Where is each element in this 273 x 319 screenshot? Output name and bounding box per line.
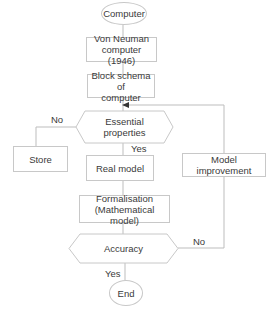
von-neuman-line-2: computer (1946) xyxy=(87,44,156,66)
edge-label-essential-yes: Yes xyxy=(131,143,147,154)
formalisation-line-1: Formalisation xyxy=(96,193,153,204)
process-von-neuman: Von Neuman computer (1946) xyxy=(86,37,157,62)
formalisation-line-2: (Mathematical model) xyxy=(80,204,169,226)
essential-line-1: Essential xyxy=(105,116,144,127)
start-node-computer: Computer xyxy=(101,2,147,25)
start-node-label: Computer xyxy=(103,8,145,19)
decision-essential-properties: Essential properties xyxy=(76,111,173,143)
process-real-model: Real model xyxy=(86,155,154,181)
essential-line-2: properties xyxy=(103,127,145,138)
real-model-label: Real model xyxy=(96,163,144,174)
store-label: Store xyxy=(29,154,52,165)
model-improvement-label: Model improvement xyxy=(183,154,265,176)
end-node-label: End xyxy=(118,288,135,299)
decision-accuracy: Accuracy xyxy=(69,234,178,263)
block-schema-line-2: computer xyxy=(101,92,141,103)
block-schema-line-1: Block schema of xyxy=(88,70,154,92)
process-block-schema: Block schema of computer xyxy=(87,74,155,98)
edge-label-accuracy-yes: Yes xyxy=(105,268,121,279)
end-node: End xyxy=(109,280,143,306)
accuracy-label: Accuracy xyxy=(104,243,143,254)
process-model-improvement: Model improvement xyxy=(182,153,266,177)
edge-essential-store xyxy=(36,127,76,146)
process-formalisation: Formalisation (Mathematical model) xyxy=(79,195,170,223)
edge-label-accuracy-no: No xyxy=(193,236,205,247)
von-neuman-line-1: Von Neuman xyxy=(94,33,149,44)
process-store: Store xyxy=(13,146,68,172)
edge-label-essential-no: No xyxy=(51,114,63,125)
